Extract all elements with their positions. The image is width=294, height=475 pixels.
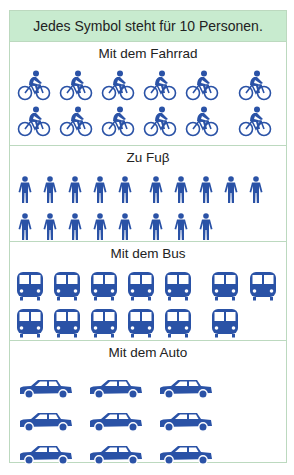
icon-grid <box>10 170 286 242</box>
car-icon <box>159 412 213 432</box>
person-walking-icon <box>173 176 189 204</box>
section-bicycle: Mit dem Fahrrad <box>10 42 286 146</box>
bicycle-icon <box>142 70 178 102</box>
section-title: Mit dem Auto <box>10 341 286 365</box>
person-walking-icon <box>248 176 264 204</box>
bicycle-icon <box>237 106 273 138</box>
bus-icon <box>53 271 81 301</box>
bicycle-icon <box>58 106 94 138</box>
bicycle-icon <box>100 106 136 138</box>
person-walking-icon <box>173 213 189 241</box>
bicycle-icon <box>142 106 178 138</box>
person-walking-icon <box>148 176 164 204</box>
person-walking-icon <box>148 213 164 241</box>
bus-icon <box>164 271 192 301</box>
bus-icon <box>211 271 239 301</box>
bus-icon <box>16 308 44 338</box>
section-bus: Mit dem Bus <box>10 242 286 341</box>
bus-icon <box>90 271 118 301</box>
car-icon <box>159 379 213 399</box>
pictogram-chart: Jedes Symbol steht für 10 Personen. Mit … <box>9 10 287 463</box>
bus-icon <box>16 271 44 301</box>
person-walking-icon <box>17 176 33 204</box>
bus-icon <box>127 271 155 301</box>
bicycle-icon <box>100 70 136 102</box>
bus-icon <box>90 308 118 338</box>
section-title: Zu Fuβ <box>10 146 286 170</box>
car-icon <box>89 445 143 465</box>
icon-grid <box>10 365 286 463</box>
person-walking-icon <box>117 176 133 204</box>
car-icon <box>89 379 143 399</box>
bicycle-icon <box>58 70 94 102</box>
car-icon <box>89 412 143 432</box>
section-walking: Zu Fuβ <box>10 146 286 242</box>
person-walking-icon <box>67 213 83 241</box>
bus-icon <box>164 308 192 338</box>
bus-icon <box>211 308 239 338</box>
section-title: Mit dem Fahrrad <box>10 42 286 66</box>
car-icon <box>19 445 73 465</box>
section-title: Mit dem Bus <box>10 242 286 266</box>
icon-grid <box>10 66 286 146</box>
bicycle-icon <box>184 70 220 102</box>
car-icon <box>19 379 73 399</box>
person-walking-icon <box>42 176 58 204</box>
person-walking-icon <box>198 213 214 241</box>
section-car: Mit dem Auto <box>10 341 286 462</box>
person-walking-icon <box>42 213 58 241</box>
bicycle-icon <box>184 106 220 138</box>
person-walking-icon <box>92 213 108 241</box>
car-icon <box>159 445 213 465</box>
person-walking-icon <box>92 176 108 204</box>
person-walking-icon <box>198 176 214 204</box>
person-walking-icon <box>117 213 133 241</box>
bus-icon <box>249 271 277 301</box>
bicycle-icon <box>16 106 52 138</box>
icon-grid <box>10 266 286 341</box>
bus-icon <box>127 308 155 338</box>
bus-icon <box>53 308 81 338</box>
car-icon <box>19 412 73 432</box>
bicycle-icon <box>16 70 52 102</box>
person-walking-icon <box>223 176 239 204</box>
chart-legend-header: Jedes Symbol steht für 10 Personen. <box>10 11 286 42</box>
bicycle-icon <box>237 70 273 102</box>
person-walking-icon <box>67 176 83 204</box>
person-walking-icon <box>17 213 33 241</box>
